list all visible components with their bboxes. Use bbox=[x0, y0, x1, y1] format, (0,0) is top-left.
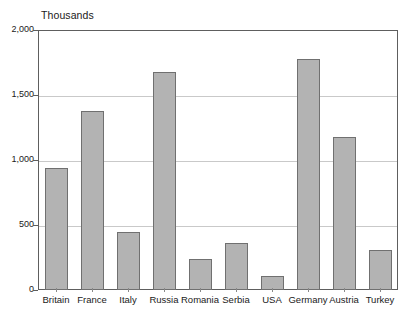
x-axis-tick-mark bbox=[344, 288, 345, 292]
bar[interactable] bbox=[45, 168, 68, 290]
y-axis-unit-caption: Thousands bbox=[41, 9, 94, 21]
y-axis-tick-label: 500 bbox=[2, 219, 34, 229]
y-axis-tick-label: 0 bbox=[2, 284, 34, 294]
y-axis-tick-label: 2,000 bbox=[2, 24, 34, 34]
x-axis-tick-mark bbox=[128, 288, 129, 292]
x-axis-tick-mark bbox=[92, 288, 93, 292]
x-axis-tick-mark bbox=[308, 288, 309, 292]
bar[interactable] bbox=[153, 72, 176, 290]
y-axis-tick-mark bbox=[33, 290, 38, 291]
y-axis-tick-label: 1,500 bbox=[2, 89, 34, 99]
bars-group bbox=[38, 30, 398, 290]
x-axis-tick-mark bbox=[56, 288, 57, 292]
y-axis-tick-label: 1,000 bbox=[2, 154, 34, 164]
bar[interactable] bbox=[117, 232, 140, 291]
bar-chart: Thousands 05001,0001,5002,000 BritainFra… bbox=[0, 0, 412, 318]
x-axis: BritainFranceItalyRussiaRomaniaSerbiaUSA… bbox=[38, 292, 398, 314]
bar[interactable] bbox=[225, 243, 248, 290]
x-axis-tick-mark bbox=[380, 288, 381, 292]
bar[interactable] bbox=[81, 111, 104, 290]
x-axis-tick-mark bbox=[164, 288, 165, 292]
x-axis-tick-mark bbox=[272, 288, 273, 292]
x-axis-tick-mark bbox=[236, 288, 237, 292]
x-axis-category-label: Turkey bbox=[358, 294, 402, 305]
bar[interactable] bbox=[333, 137, 356, 290]
bar[interactable] bbox=[189, 259, 212, 290]
x-axis-tick-mark bbox=[200, 288, 201, 292]
bar[interactable] bbox=[297, 59, 320, 290]
bar[interactable] bbox=[369, 250, 392, 290]
